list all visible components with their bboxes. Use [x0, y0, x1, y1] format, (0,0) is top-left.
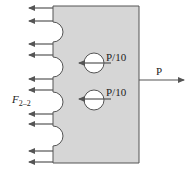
hole-2-force-label: P/10 — [106, 86, 127, 98]
section-force-arrows — [29, 8, 53, 162]
plate-body — [53, 6, 139, 163]
applied-load-label: P — [156, 65, 162, 77]
section-force-subscript: 2–2 — [19, 99, 31, 108]
free-body-diagram: P/10 P/10 P F2–2 — [0, 0, 196, 173]
section-force-label: F2–2 — [11, 93, 31, 108]
hole-1-force-label: P/10 — [106, 51, 127, 63]
